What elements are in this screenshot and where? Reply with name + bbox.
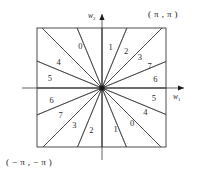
sector-label: 1 — [108, 42, 112, 52]
sector-label: 2 — [89, 125, 93, 135]
corner-label-bottom-left: ( − π , − π ) — [6, 157, 52, 167]
sector-label: 7 — [147, 61, 151, 71]
y-axis-arrowhead — [99, 14, 104, 20]
sector-label: 3 — [138, 52, 142, 62]
sector-label: 7 — [58, 110, 62, 120]
sector-label: 5 — [48, 73, 52, 83]
y-axis-label-subscript: 2 — [93, 16, 96, 21]
origin-point — [100, 86, 105, 91]
sector-label: 1 — [113, 124, 117, 134]
sector-label: 6 — [153, 74, 157, 84]
sector-label: 4 — [57, 57, 62, 67]
y-axis-label: w2 — [88, 11, 96, 21]
sector-label: 5 — [152, 93, 156, 103]
x-axis-arrowhead — [178, 85, 184, 90]
x-axis-label: w1 — [173, 92, 181, 102]
sector-label: 6 — [49, 95, 53, 105]
sector-label: 2 — [124, 46, 128, 56]
sector-label: 0 — [130, 118, 134, 128]
x-axis-label-subscript: 1 — [178, 97, 181, 102]
sector-label: 0 — [78, 41, 82, 51]
corner-label-top-right: ( π , π ) — [148, 9, 178, 19]
sector-partition-diagram: 1237654012376540 w1 w2 ( π , π ) ( − π ,… — [0, 0, 204, 172]
sector-label: 3 — [72, 120, 76, 130]
sector-label: 4 — [143, 107, 148, 117]
